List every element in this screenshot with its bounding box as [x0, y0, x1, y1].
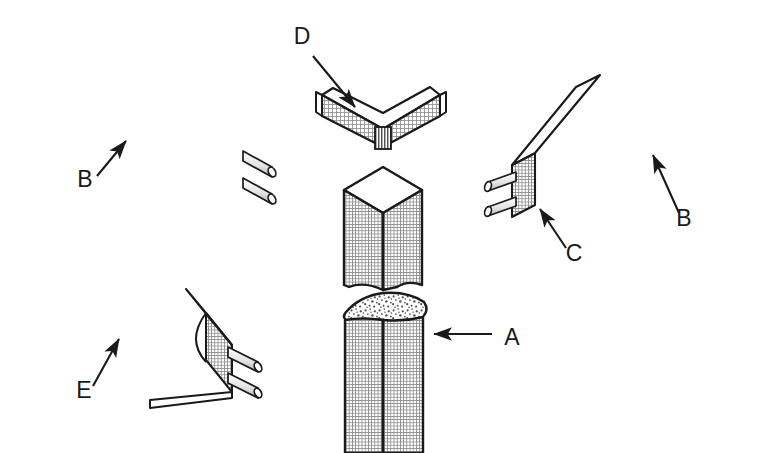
bend-seam — [375, 127, 391, 149]
callout-label: C — [566, 240, 583, 266]
illustration-canvas: B — [0, 0, 771, 453]
right-end-cap — [440, 92, 446, 116]
part-lower-square-bar-segment — [344, 293, 427, 453]
callout-label: D — [294, 23, 311, 49]
part-upper-square-bar-segment — [344, 167, 422, 290]
callout-label: A — [504, 324, 520, 350]
technical-illustration-figure: B — [0, 0, 771, 453]
right-face — [383, 317, 423, 453]
callout-label: B — [77, 166, 92, 192]
callout-label: B — [676, 205, 691, 231]
left-end-cap — [316, 92, 322, 116]
left-face — [345, 319, 383, 453]
callout-label: E — [76, 377, 91, 403]
